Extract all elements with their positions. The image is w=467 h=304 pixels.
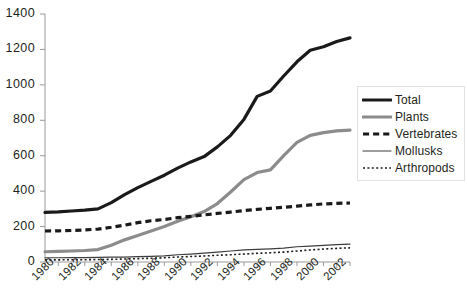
legend-item-total[interactable]: Total — [362, 91, 461, 108]
legend-item-label: Plants — [395, 110, 429, 124]
y-axis-tick-label: 200 — [0, 219, 35, 233]
line-chart: 0200400600800100012001400 19801982198419… — [0, 0, 467, 304]
series-line-total — [45, 38, 350, 212]
y-axis-tick-label: 0 — [0, 254, 35, 268]
legend-item-label: Mollusks — [395, 144, 442, 158]
series-line-vertebrates — [45, 203, 350, 231]
legend-line-icon — [362, 144, 392, 158]
legend-line-icon — [362, 110, 392, 124]
series-line-plants — [45, 130, 350, 252]
legend-item-label: Total — [395, 93, 421, 107]
legend-item-label: Vertebrates — [395, 127, 457, 141]
legend-line-icon — [362, 161, 392, 175]
y-axis-tick-label: 1400 — [0, 6, 35, 20]
legend-line-icon — [362, 127, 392, 141]
y-axis-tick-label: 400 — [0, 183, 35, 197]
legend-line-icon — [362, 93, 392, 107]
legend-item-plants[interactable]: Plants — [362, 108, 461, 125]
legend-item-arthropods[interactable]: Arthropods — [362, 159, 461, 176]
y-axis-tick-label: 1200 — [0, 41, 35, 55]
legend-item-vertebrates[interactable]: Vertebrates — [362, 125, 461, 142]
chart-legend: TotalPlantsVertebratesMollusksArthropods — [357, 86, 465, 181]
y-axis-tick-label: 600 — [0, 148, 35, 162]
y-axis-tick-label: 800 — [0, 112, 35, 126]
y-axis-tick-label: 1000 — [0, 77, 35, 91]
legend-item-mollusks[interactable]: Mollusks — [362, 142, 461, 159]
legend-item-label: Arthropods — [395, 161, 455, 175]
